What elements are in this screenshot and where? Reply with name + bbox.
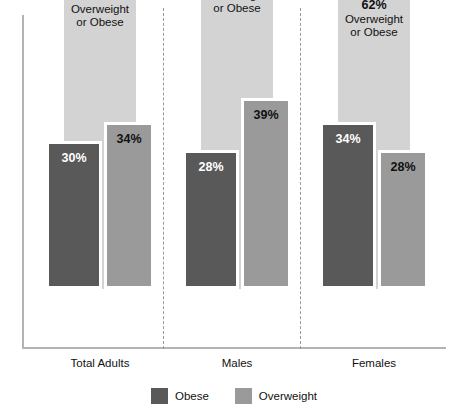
total-pct-females: 62% [361, 0, 386, 12]
y-axis-line [22, 15, 24, 349]
bar-obese-total-adults[interactable]: 30% [46, 141, 102, 289]
bar-value-overweight-females: 28% [381, 160, 425, 174]
bar-obese-females[interactable]: 34% [320, 122, 376, 289]
total-line2-males: or Obese [213, 2, 260, 14]
total-line2-females: or Obese [350, 26, 397, 38]
total-line2-total-adults: or Obese [76, 16, 123, 28]
category-label-males: Males [183, 357, 291, 369]
plot-area: 64% Overweight or Obese 30% 34% Total Ad… [0, 0, 468, 360]
chart-legend: Obese Overweight [0, 388, 468, 404]
bar-group-total-adults: 64% Overweight or Obese 30% 34% [46, 0, 154, 289]
legend-item-obese[interactable]: Obese [151, 388, 209, 404]
bar-chart: 64% Overweight or Obese 30% 34% Total Ad… [0, 0, 468, 419]
total-annotation-males: 67% Overweight or Obese [201, 0, 273, 16]
legend-swatch-overweight [235, 388, 252, 404]
bar-obese-males[interactable]: 28% [183, 150, 239, 289]
bar-value-obese-males: 28% [186, 160, 236, 174]
bar-value-obese-total-adults: 30% [49, 151, 99, 165]
total-line1-males: Overweight [208, 0, 266, 1]
total-annotation-females: 62% Overweight or Obese [338, 0, 410, 40]
legend-swatch-obese [151, 388, 168, 404]
bar-group-males: 67% Overweight or Obese 28% 39% [183, 0, 291, 289]
bar-overweight-males[interactable]: 39% [241, 98, 291, 289]
legend-label-obese: Obese [175, 388, 209, 404]
bar-group-females: 62% Overweight or Obese 34% 28% [320, 0, 428, 289]
bar-value-overweight-total-adults: 34% [107, 132, 151, 146]
group-divider-1 [163, 8, 164, 349]
bar-value-obese-females: 34% [323, 132, 373, 146]
bar-overweight-females[interactable]: 28% [378, 150, 428, 289]
bar-overweight-total-adults[interactable]: 34% [104, 122, 154, 289]
x-axis-line [22, 347, 446, 349]
legend-label-overweight: Overweight [259, 388, 317, 404]
category-label-females: Females [320, 357, 428, 369]
category-label-total-adults: Total Adults [46, 357, 154, 369]
total-annotation-total-adults: 64% Overweight or Obese [64, 0, 136, 30]
legend-item-overweight[interactable]: Overweight [235, 388, 317, 404]
group-divider-2 [300, 8, 301, 349]
bar-value-overweight-males: 39% [244, 108, 288, 122]
total-line1-total-adults: Overweight [71, 3, 129, 15]
total-line1-females: Overweight [345, 13, 403, 25]
